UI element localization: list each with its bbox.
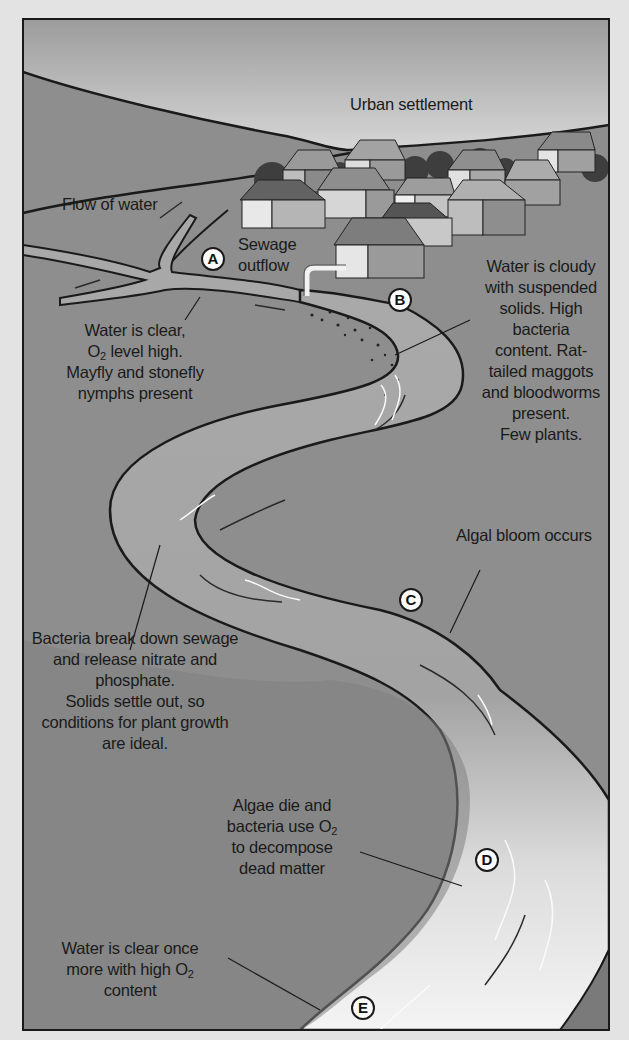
label-line: dead matter (212, 858, 352, 879)
marker-e: E (351, 996, 375, 1020)
label-line: phosphate. (20, 670, 250, 691)
label-line: and release nitrate and (20, 649, 250, 670)
label-line: Bacteria break down sewage (20, 628, 250, 649)
marker-b: B (388, 288, 412, 312)
label-line: bacteria use O2 (212, 816, 352, 837)
label-line: Mayfly and stonefly (55, 362, 215, 383)
marker-c: C (399, 588, 423, 612)
label-line: and bloodworms (476, 382, 606, 403)
label-line: Few plants. (476, 424, 606, 445)
label-line: conditions for plant growth (20, 712, 250, 733)
label-line: to decompose (212, 837, 352, 858)
label-line: outflow (238, 255, 296, 276)
label-line: bacteria (476, 319, 606, 340)
label-line: Algae die and (212, 795, 352, 816)
label-bacteria-note: Bacteria break down sewage and release n… (20, 628, 250, 754)
label-line: Solids settle out, so (20, 691, 250, 712)
label-point-e: Water is clear once more with high O2 co… (50, 938, 210, 1001)
label-line: more with high O2 (50, 959, 210, 980)
label-line: Water is clear, (55, 320, 215, 341)
o2-text: O2 (175, 960, 194, 978)
label-line: Sewage (238, 234, 296, 255)
label-line: content. Rat- (476, 340, 606, 361)
o2-text: O2 (87, 342, 106, 360)
label-point-a: Water is clear, O2 level high. Mayfly an… (55, 320, 215, 404)
label-line: Water is clear once (50, 938, 210, 959)
label-line: Water is cloudy (476, 256, 606, 277)
river-pollution-scene (0, 0, 629, 1040)
label-flow-of-water: Flow of water (62, 194, 158, 215)
label-line: with suspended (476, 277, 606, 298)
label-point-c: Algal bloom occurs (456, 525, 592, 546)
marker-a: A (201, 247, 225, 271)
label-line: tailed maggots (476, 361, 606, 382)
label-line: solids. High (476, 298, 606, 319)
label-point-b: Water is cloudy with suspended solids. H… (476, 256, 606, 445)
label-point-d: Algae die and bacteria use O2 to decompo… (212, 795, 352, 879)
o2-text: O2 (319, 817, 338, 835)
label-line: O2 level high. (55, 341, 215, 362)
label-line: are ideal. (20, 733, 250, 754)
marker-d: D (475, 848, 499, 872)
label-line: content (50, 980, 210, 1001)
label-line: present. (476, 403, 606, 424)
label-urban-settlement: Urban settlement (350, 94, 472, 115)
label-line: nymphs present (55, 383, 215, 404)
label-sewage-outflow: Sewage outflow (238, 234, 296, 276)
